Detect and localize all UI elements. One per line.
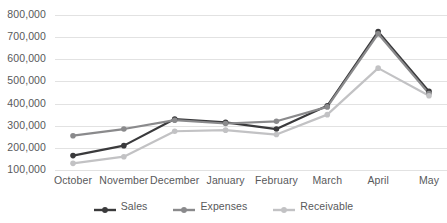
legend-marker-icon bbox=[94, 201, 116, 211]
data-point-receivable bbox=[70, 161, 76, 167]
data-point-receivable bbox=[121, 154, 127, 160]
series-line-sales bbox=[73, 32, 429, 156]
data-point-receivable bbox=[172, 128, 178, 134]
data-point-expenses bbox=[172, 117, 178, 123]
x-axis-tick-label: March bbox=[312, 174, 342, 187]
x-axis-tick-label: December bbox=[150, 174, 199, 187]
data-point-expenses bbox=[70, 133, 76, 139]
data-point-receivable bbox=[324, 112, 330, 118]
data-point-receivable bbox=[274, 132, 280, 138]
series-line-receivable bbox=[73, 68, 429, 163]
y-axis-tick-label: 300,000 bbox=[7, 120, 46, 131]
legend-marker-icon bbox=[273, 201, 295, 211]
legend-item-receivable[interactable]: Receivable bbox=[273, 200, 353, 212]
legend-marker-icon bbox=[173, 201, 195, 211]
y-axis-tick-label: 200,000 bbox=[7, 142, 46, 153]
legend-item-expenses[interactable]: Expenses bbox=[173, 200, 247, 212]
y-axis-tick-label: 500,000 bbox=[7, 75, 46, 86]
data-point-expenses bbox=[324, 104, 330, 110]
data-point-expenses bbox=[274, 118, 280, 124]
data-point-expenses bbox=[375, 31, 381, 37]
data-point-expenses bbox=[121, 126, 127, 132]
y-axis-tick-label: 100,000 bbox=[7, 164, 46, 175]
data-point-receivable bbox=[426, 93, 432, 99]
legend-label: Receivable bbox=[300, 200, 353, 212]
data-point-receivable bbox=[375, 65, 381, 71]
data-point-sales bbox=[121, 143, 127, 149]
chart-legend: SalesExpensesReceivable bbox=[0, 196, 447, 216]
plot-area bbox=[55, 15, 447, 170]
legend-item-sales[interactable]: Sales bbox=[94, 200, 148, 212]
data-point-expenses bbox=[223, 121, 229, 127]
y-axis-tick-label: 400,000 bbox=[7, 98, 46, 109]
x-axis-tick-label: May bbox=[419, 174, 439, 187]
x-axis: OctoberNovemberDecemberJanuaryFebruaryMa… bbox=[55, 174, 447, 190]
x-axis-tick-label: February bbox=[255, 174, 298, 187]
x-axis-tick-label: October bbox=[54, 174, 92, 187]
y-axis-tick-label: 600,000 bbox=[7, 53, 46, 64]
y-axis: 800,000700,000600,000500,000400,000300,0… bbox=[0, 0, 50, 185]
line-chart: 800,000700,000600,000500,000400,000300,0… bbox=[0, 0, 447, 223]
x-axis-tick-label: January bbox=[207, 174, 245, 187]
gridline bbox=[55, 170, 447, 171]
series-line-expenses bbox=[73, 34, 429, 136]
x-axis-tick-label: April bbox=[367, 174, 389, 187]
y-axis-tick-label: 800,000 bbox=[7, 9, 46, 20]
x-axis-tick-label: November bbox=[99, 174, 148, 187]
data-point-sales bbox=[274, 126, 280, 132]
y-axis-tick-label: 700,000 bbox=[7, 31, 46, 42]
legend-label: Expenses bbox=[200, 200, 247, 212]
data-point-sales bbox=[70, 153, 76, 159]
series-layer bbox=[55, 15, 447, 170]
legend-label: Sales bbox=[121, 200, 148, 212]
data-point-receivable bbox=[223, 127, 229, 133]
